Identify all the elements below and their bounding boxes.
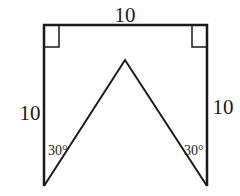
left-side-label: 10 — [20, 101, 41, 125]
right-angle-label: 30° — [184, 143, 204, 158]
inner-v-lines — [44, 60, 207, 186]
outer-frame — [44, 25, 207, 186]
top-side-label: 10 — [115, 3, 136, 27]
right-angle-marker-right — [192, 25, 207, 47]
right-angle-marker-left — [44, 25, 59, 47]
right-side-label: 10 — [213, 95, 234, 119]
left-angle-label: 30° — [48, 143, 68, 158]
geometry-diagram: 10 10 10 30° 30° — [0, 0, 240, 196]
